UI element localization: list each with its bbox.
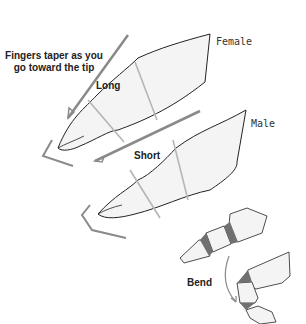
- segmented-finger-bent: [237, 252, 290, 324]
- length-label-short: Short: [134, 150, 160, 161]
- bend-arrow: [225, 256, 236, 302]
- gender-label-male: Male: [251, 118, 275, 129]
- length-label-long: Long: [96, 80, 120, 91]
- taper-note-line-2: go toward the tip: [4, 62, 104, 74]
- taper-note-line-1: Fingers taper as you: [4, 50, 104, 62]
- taper-note: Fingers taper as you go toward the tip: [4, 50, 104, 74]
- segment-bent-distal: [246, 306, 276, 324]
- bend-label: Bend: [187, 277, 212, 288]
- diagram-canvas: [0, 0, 306, 324]
- segmented-finger-straight: [180, 208, 267, 263]
- gender-label-female: Female: [216, 36, 252, 47]
- finger-diagram: Fingers taper as you go toward the tip L…: [0, 0, 306, 324]
